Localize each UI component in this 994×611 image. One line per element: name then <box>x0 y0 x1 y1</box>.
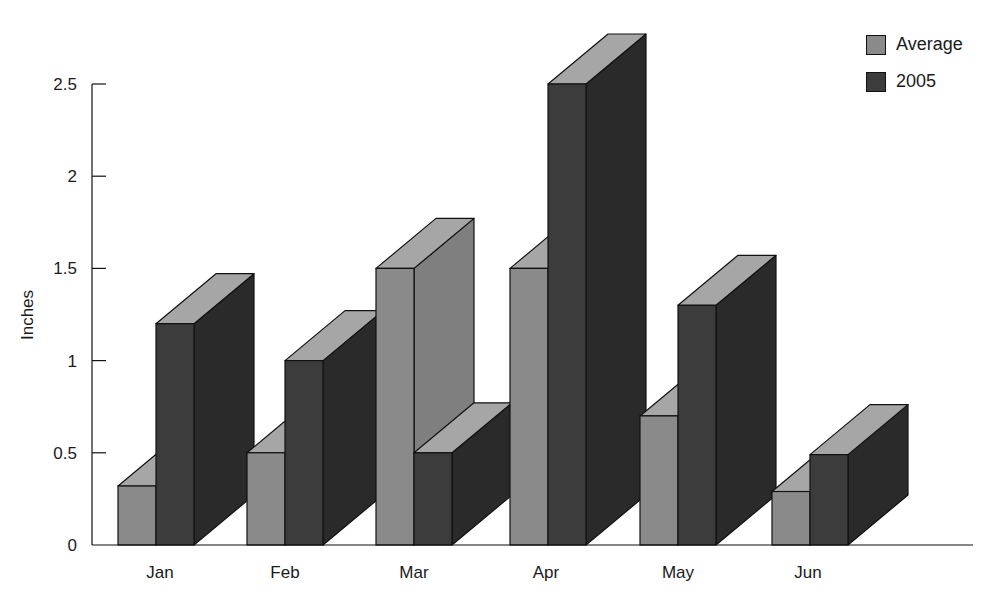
legend-swatch-2005 <box>866 72 886 92</box>
bar-apr-2005 <box>548 34 646 545</box>
x-category-label: Mar <box>399 563 429 582</box>
legend-item-2005: 2005 <box>866 70 963 93</box>
y-tick-label: 1 <box>68 352 77 371</box>
bar-chart: 00.511.522.5JanFebMarAprMayJun <box>0 0 994 611</box>
y-tick-label: 0.5 <box>53 444 77 463</box>
x-category-label: Jan <box>146 563 173 582</box>
bar-may-2005 <box>678 255 776 545</box>
legend-label-2005: 2005 <box>896 71 936 92</box>
x-category-label: Feb <box>270 563 299 582</box>
legend-item-average: Average <box>866 33 963 56</box>
legend-label-average: Average <box>896 34 963 55</box>
x-category-label: May <box>662 563 695 582</box>
y-tick-label: 2 <box>68 167 77 186</box>
y-tick-label: 0 <box>68 536 77 555</box>
y-tick-label: 1.5 <box>53 259 77 278</box>
x-category-label: Jun <box>794 563 821 582</box>
bar-feb-2005 <box>285 311 383 545</box>
legend: Average 2005 <box>866 33 963 107</box>
bar-jan-2005 <box>156 274 254 545</box>
legend-swatch-average <box>866 35 886 55</box>
bar-jun-2005 <box>810 405 908 545</box>
bars-layer <box>118 34 908 545</box>
y-axis-label: Inches <box>18 290 38 340</box>
y-tick-label: 2.5 <box>53 75 77 94</box>
x-category-label: Apr <box>533 563 560 582</box>
